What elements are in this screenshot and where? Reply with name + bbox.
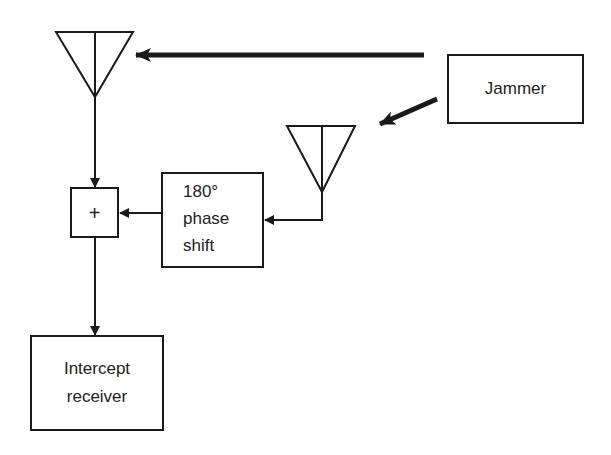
receiver-line-1: Intercept <box>64 355 130 383</box>
jammer-to-aux-antenna-arrow <box>380 99 437 124</box>
phase-shift-line-1: 180° <box>183 178 229 205</box>
phase-shift-line-3: shift <box>183 232 229 259</box>
phase-shift-label: 180° phase shift <box>183 178 229 259</box>
phase-shift-line-2: phase <box>183 205 229 232</box>
summer-label: + <box>71 188 118 237</box>
receiver-line-2: receiver <box>67 383 127 411</box>
jammer-label: Jammer <box>448 55 583 123</box>
jammer-label-text: Jammer <box>485 78 546 100</box>
aux-antenna-to-phase-shift-line <box>265 192 322 220</box>
plus-icon: + <box>89 202 101 224</box>
intercept-receiver-label: Intercept receiver <box>31 336 163 430</box>
main-antenna-icon <box>56 32 133 97</box>
auxiliary-antenna-icon <box>287 126 355 192</box>
